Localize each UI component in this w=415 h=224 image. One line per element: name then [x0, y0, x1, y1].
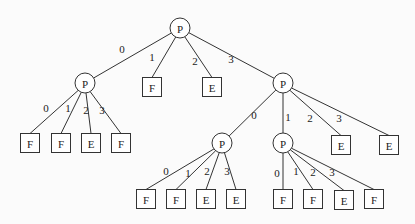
- tree-diagram: 01230123012301230123 PPFEPFFEFPPEEFFEEFF…: [0, 0, 415, 224]
- node-label: E: [233, 194, 240, 206]
- edge-label: 0: [274, 167, 280, 179]
- box-node-e1: F: [167, 190, 186, 209]
- node-label: F: [371, 194, 377, 206]
- edge-label: 2: [83, 104, 89, 116]
- edge-label: 2: [192, 55, 198, 67]
- edge-label: 1: [285, 111, 291, 123]
- edge-a-a0: [30, 90, 78, 133]
- node-label: P: [280, 138, 286, 150]
- box-node-a3: F: [112, 134, 131, 153]
- circle-node-d1: P: [273, 133, 293, 153]
- box-node-f3: F: [365, 190, 384, 209]
- node-label: F: [173, 194, 179, 206]
- box-node-e2: E: [197, 190, 216, 209]
- node-label: P: [82, 78, 88, 90]
- edge-label: 1: [65, 102, 71, 114]
- circle-node-d: P: [273, 73, 293, 93]
- circle-node-root: P: [170, 18, 190, 38]
- edge-label: 0: [119, 43, 125, 55]
- edge-label: 3: [329, 166, 335, 178]
- edge-label: 1: [293, 165, 299, 177]
- edge-label: 2: [204, 165, 210, 177]
- edge-labels: 01230123012301230123: [43, 43, 342, 179]
- node-label: F: [310, 194, 316, 206]
- box-node-f1: F: [304, 190, 323, 209]
- edge-label: 3: [224, 165, 230, 177]
- node-label: E: [88, 138, 95, 150]
- node-label: P: [280, 78, 286, 90]
- node-label: E: [338, 140, 345, 152]
- node-label: E: [203, 194, 210, 206]
- node-label: F: [280, 194, 286, 206]
- box-node-f0: F: [274, 190, 293, 209]
- edge-label: 3: [336, 112, 342, 124]
- edge-label: 3: [99, 104, 105, 116]
- node-label: P: [219, 138, 225, 150]
- box-node-d3: E: [380, 136, 399, 155]
- edge-label: 0: [43, 102, 49, 114]
- edge-label: 0: [251, 109, 257, 121]
- node-label: F: [149, 82, 155, 94]
- node-label: F: [58, 138, 64, 150]
- box-node-a2: E: [82, 134, 101, 153]
- box-node-b: F: [143, 78, 162, 97]
- box-node-a1: F: [52, 134, 71, 153]
- node-label: F: [143, 194, 149, 206]
- edge-root-a: [94, 33, 172, 78]
- edge-a-a1: [61, 92, 81, 133]
- edge-label: 0: [163, 165, 169, 177]
- box-node-c: E: [203, 78, 222, 97]
- circle-node-d0: P: [212, 133, 232, 153]
- edge-label: 1: [149, 51, 155, 63]
- edge-a-a3: [90, 92, 121, 134]
- edge-label: 1: [185, 167, 191, 179]
- edge-label: 3: [228, 53, 234, 65]
- node-label: F: [27, 138, 33, 150]
- box-node-a0: F: [21, 134, 40, 153]
- box-node-d2: E: [332, 136, 351, 155]
- box-node-f2: E: [335, 191, 354, 210]
- box-node-e0: F: [137, 190, 156, 209]
- edge-label: 2: [307, 112, 313, 124]
- node-label: P: [177, 23, 183, 35]
- box-node-e3: E: [227, 190, 246, 209]
- edge-root-b: [152, 37, 176, 77]
- node-label: E: [386, 140, 393, 152]
- edge-label: 2: [310, 166, 316, 178]
- edge-d-d2: [290, 90, 341, 135]
- node-label: E: [209, 82, 216, 94]
- node-label: F: [118, 138, 124, 150]
- node-label: E: [341, 195, 348, 207]
- circle-node-a: P: [75, 73, 95, 93]
